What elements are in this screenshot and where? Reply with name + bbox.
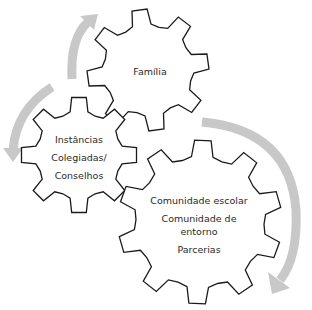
gear-label-comunidade: Comunidade escolar Comunidade de entorno… — [150, 194, 247, 256]
gears-diagram — [0, 0, 312, 310]
label-line: Conselhos — [51, 169, 106, 182]
label-line: Parcerias — [150, 243, 247, 256]
label-line: entorno — [150, 225, 247, 238]
gear-label-instancias: Instâncias Colegiadas/ Conselhos — [51, 133, 106, 182]
label-line: Comunidade escolar — [150, 194, 247, 207]
label-line: Instâncias — [51, 133, 106, 146]
label-line: Colegiadas/ — [51, 151, 106, 164]
label-line: Família — [133, 65, 166, 78]
gear-label-familia: Família — [133, 65, 166, 78]
label-line: Comunidade de — [150, 212, 247, 225]
arrow-up-left-shaft — [72, 22, 88, 79]
arrow-down-left-head-icon — [3, 148, 23, 162]
